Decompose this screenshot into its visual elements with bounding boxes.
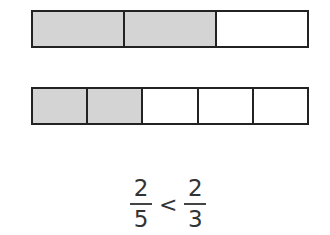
right-fraction: 2 3 <box>182 176 208 232</box>
fraction-bar <box>184 203 206 205</box>
left-numerator: 2 <box>134 176 149 201</box>
empty-segment <box>217 12 307 46</box>
fraction-bar <box>130 203 152 205</box>
less-than-sign: < <box>159 192 177 217</box>
fraction-comparison: 2 5 < 2 3 <box>128 176 208 232</box>
left-fraction: 2 5 <box>128 176 154 232</box>
left-denominator: 5 <box>134 207 149 232</box>
right-denominator: 3 <box>188 207 203 232</box>
thirds-bar <box>31 10 309 48</box>
shaded-segment <box>33 89 88 123</box>
empty-segment <box>143 89 198 123</box>
shaded-segment <box>88 89 143 123</box>
shaded-segment <box>125 12 217 46</box>
fifths-bar <box>31 87 309 125</box>
shaded-segment <box>33 12 125 46</box>
right-numerator: 2 <box>188 176 203 201</box>
empty-segment <box>199 89 254 123</box>
empty-segment <box>254 89 307 123</box>
